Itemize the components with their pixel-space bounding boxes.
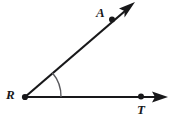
point-label-r: R (6, 88, 15, 101)
angle-arc (52, 73, 61, 97)
point-label-a: A (96, 6, 105, 19)
point-label-t: T (137, 103, 145, 116)
point-r-dot (22, 94, 28, 100)
point-t-dot (138, 94, 144, 100)
point-a-dot (109, 17, 115, 23)
angle-diagram-canvas (0, 0, 178, 121)
angle-diagram: R A T (0, 0, 178, 121)
